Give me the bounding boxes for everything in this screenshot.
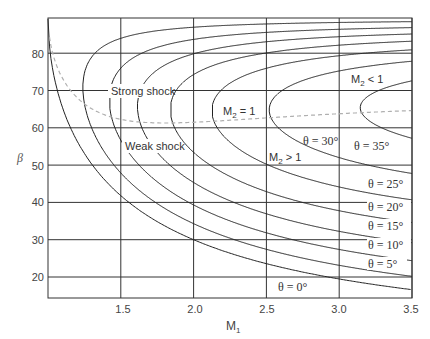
y-tick-70: 70 xyxy=(32,85,44,97)
theta-0-label: θ = 0° xyxy=(278,280,308,294)
theta-15-label: θ = 15° xyxy=(368,219,404,233)
weak-shock-label: Weak shock xyxy=(125,140,185,152)
theta-20-curve xyxy=(171,41,412,222)
theta-0-curve xyxy=(48,19,411,290)
m2-equals-1-label: M2 = 1 xyxy=(223,105,255,120)
annotations: Strong shock Weak shock M2 = 1 M2 > 1 M2… xyxy=(108,73,411,294)
strong-shock-label: Strong shock xyxy=(111,85,176,97)
y-tick-80: 80 xyxy=(32,48,44,60)
y-axis-ticks: 80 70 60 50 40 30 20 xyxy=(32,48,44,283)
theta-35-curve xyxy=(360,81,412,139)
x-tick-2.5: 2.5 xyxy=(259,303,274,315)
m2-less-1-label: M2 < 1 xyxy=(351,73,383,88)
x-tick-3.5: 3.5 xyxy=(403,303,418,315)
y-tick-50: 50 xyxy=(32,160,44,172)
theta-20-label: θ = 20° xyxy=(368,200,404,214)
y-tick-30: 30 xyxy=(32,234,44,246)
theta-35-label: θ = 35° xyxy=(354,139,390,153)
theta-beta-mach-chart: 80 70 60 50 40 30 20 1.5 2.0 2.5 3.0 3.5… xyxy=(0,0,430,339)
theta-10-label: θ = 10° xyxy=(368,238,404,252)
m2-greater-1-label: M2 > 1 xyxy=(269,151,301,166)
x-axis-label: M1 xyxy=(226,319,241,335)
y-tick-40: 40 xyxy=(32,196,44,208)
theta-curves xyxy=(48,19,412,290)
x-axis-ticks: 1.5 2.0 2.5 3.0 3.5 xyxy=(115,303,418,315)
y-tick-20: 20 xyxy=(32,271,44,283)
x-tick-2.0: 2.0 xyxy=(187,303,202,315)
theta-5-label: θ = 5° xyxy=(368,257,398,271)
theta-30-label: θ = 30° xyxy=(303,134,339,148)
x-tick-3.0: 3.0 xyxy=(331,303,346,315)
x-tick-1.5: 1.5 xyxy=(115,303,130,315)
theta-25-label: θ = 25° xyxy=(368,177,404,191)
y-axis-label: β xyxy=(16,151,23,165)
y-tick-60: 60 xyxy=(32,122,44,134)
